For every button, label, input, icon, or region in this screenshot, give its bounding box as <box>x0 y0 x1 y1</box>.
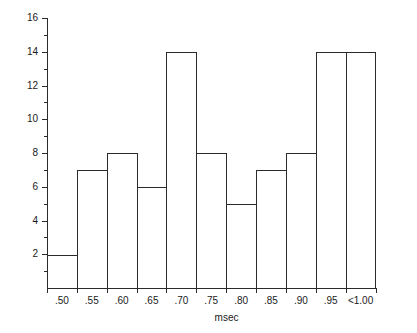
x-tick <box>316 288 317 293</box>
histogram-bar <box>346 52 377 289</box>
y-tick-minor-11 <box>44 102 48 103</box>
y-tick-label-2: 2 <box>4 249 38 259</box>
x-tick <box>286 288 287 293</box>
histogram-bar <box>286 153 317 288</box>
x-axis-title: msec <box>0 312 417 323</box>
y-tick-14 <box>42 52 48 53</box>
x-tick-end <box>376 288 377 293</box>
x-axis-title-text: msec <box>215 312 239 323</box>
x-tick-label: <1.00 <box>336 295 386 306</box>
y-tick-label-10: 10 <box>4 114 38 124</box>
x-tick <box>256 288 257 293</box>
histogram-figure: 16 14 12 10 8 6 4 2 .50.55.60.65.70.75.8… <box>0 0 417 333</box>
y-tick-6 <box>42 187 48 188</box>
x-tick <box>226 288 227 293</box>
plot-area: 16 14 12 10 8 6 4 2 .50.55.60.65.70.75.8… <box>0 0 417 333</box>
x-tick <box>107 288 108 293</box>
y-tick-minor-15 <box>44 35 48 36</box>
x-tick <box>137 288 138 293</box>
histogram-bar <box>196 153 227 288</box>
y-tick-minor-3 <box>44 237 48 238</box>
x-tick <box>196 288 197 293</box>
y-tick-label-12: 12 <box>4 81 38 91</box>
y-tick-minor-5 <box>44 204 48 205</box>
y-tick-label-6: 6 <box>4 182 38 192</box>
y-tick-label-8: 8 <box>4 148 38 158</box>
y-tick-minor-9 <box>44 136 48 137</box>
y-tick-16 <box>42 18 48 19</box>
y-tick-12 <box>42 86 48 87</box>
histogram-bar <box>316 52 347 289</box>
y-tick-label-4: 4 <box>4 216 38 226</box>
y-tick-10 <box>42 119 48 120</box>
y-tick-minor-7 <box>44 170 48 171</box>
histogram-bar <box>166 52 197 289</box>
histogram-bar <box>77 170 108 288</box>
x-tick <box>47 288 48 293</box>
y-tick-label-14: 14 <box>4 47 38 57</box>
x-tick <box>77 288 78 293</box>
histogram-bar <box>256 170 287 288</box>
y-tick-minor-13 <box>44 69 48 70</box>
y-tick-4 <box>42 221 48 222</box>
histogram-bar <box>107 153 138 288</box>
y-tick-8 <box>42 153 48 154</box>
histogram-bar <box>137 187 168 288</box>
x-tick <box>346 288 347 293</box>
histogram-bar <box>47 255 78 289</box>
x-tick <box>166 288 167 293</box>
y-tick-label-16: 16 <box>4 13 38 23</box>
histogram-bar <box>226 204 257 289</box>
